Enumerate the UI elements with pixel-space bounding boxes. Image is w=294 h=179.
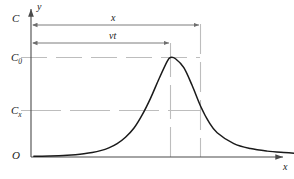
concentration-curve <box>34 57 294 156</box>
c0-sub: 0 <box>18 57 22 66</box>
concentration-profile-figure: C C0 Cx O y x x vt <box>0 0 294 179</box>
cx-sub: x <box>18 110 21 119</box>
x-axis-label: x <box>283 162 287 172</box>
y-tick-label-C: C <box>12 13 19 24</box>
y-tick-label-Cx: Cx <box>11 105 22 119</box>
y-axis-label: y <box>37 2 41 12</box>
dimension-label-x: x <box>111 13 115 23</box>
origin-label: O <box>12 150 20 161</box>
plot-canvas <box>0 0 294 179</box>
dimension-label-vt: vt <box>109 31 116 41</box>
y-tick-label-C0: C0 <box>11 52 22 66</box>
